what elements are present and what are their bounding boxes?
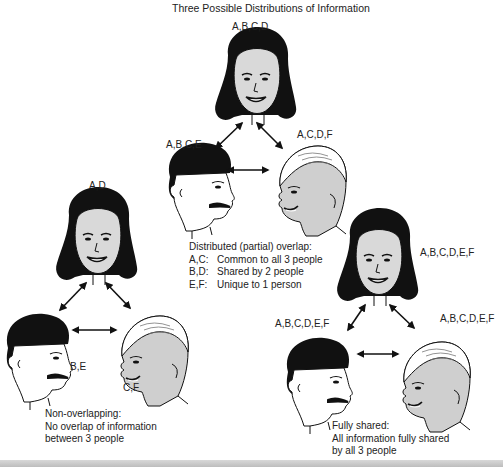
full-top-info-label: A,B,C,D,E,F	[420, 247, 474, 259]
light-haired-man-face-icon	[403, 342, 470, 432]
full-left-info-label: A,B,C,D,E,F	[275, 318, 329, 330]
full-right-info-label: A,B,C,D,E,F	[440, 313, 494, 325]
dark-haired-man-face-icon	[7, 314, 73, 410]
full-caption: Fully shared: All information fully shar…	[332, 420, 449, 458]
non-overlapping-group	[7, 187, 188, 410]
partial-right-info-label: A,C,D,F	[297, 129, 333, 141]
non-overlap-right-info-label: C,F	[123, 382, 139, 394]
non-overlap-left-info-label: B,E	[70, 361, 86, 373]
arrow-icon	[216, 123, 242, 148]
partial-left-info-label: A,B,C,E	[166, 139, 202, 151]
partial-legend-row: A,C:Common to all 3 people	[189, 254, 323, 267]
partial-caption: Distributed (partial) overlap: A,C:Commo…	[189, 241, 323, 291]
dark-haired-man-face-icon	[169, 143, 235, 239]
arrow-icon	[60, 283, 86, 310]
woman-face-icon	[56, 187, 137, 285]
woman-face-icon	[215, 27, 296, 125]
arrow-icon	[257, 123, 282, 148]
partial-legend-row: B,D:Shared by 2 people	[189, 266, 323, 279]
diagram-title: Three Possible Distributions of Informat…	[172, 2, 370, 14]
arrow-icon	[106, 283, 130, 308]
bottom-divider-bar	[0, 460, 503, 467]
partial-caption-title: Distributed (partial) overlap:	[189, 241, 323, 254]
non-overlap-caption: Non-overlapping: No overlap of informati…	[45, 408, 157, 446]
partial-legend-row: E,F:Unique to 1 person	[189, 279, 323, 292]
partial-top-info-label: A,B,C,D	[232, 21, 268, 33]
non-overlap-top-info-label: A,D	[89, 180, 106, 192]
light-haired-man-face-icon	[279, 146, 346, 236]
diagram-artwork	[0, 0, 503, 467]
arrow-icon	[390, 305, 414, 328]
woman-face-icon	[337, 208, 418, 306]
arrow-icon	[348, 305, 365, 330]
